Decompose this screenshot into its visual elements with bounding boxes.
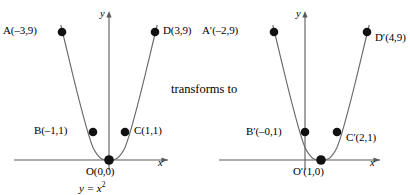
point-marker-B: [89, 128, 98, 137]
point-marker-D-prime: [363, 28, 372, 37]
point-label-B: B(–1,1): [34, 125, 67, 137]
point-label-D-prime: D′(4,9): [375, 32, 406, 44]
point-label-O-prime: O′(1,0): [293, 166, 324, 178]
x-axis-label: x: [158, 157, 163, 168]
point-marker-O-prime: [316, 155, 326, 165]
point-marker-O: [104, 155, 114, 165]
point-label-A: A(–3,9): [3, 25, 37, 37]
equation-text: y = x: [79, 182, 102, 194]
transformed-parabola-figure: y x A′(–2,9) D′(4,9) B′(–0,1) C′(2,1) O′…: [205, 0, 410, 195]
point-marker-C-prime: [333, 128, 342, 137]
y-axis-label: y: [296, 8, 301, 19]
point-label-B-prime: B′(–0,1): [246, 126, 282, 138]
point-marker-C: [121, 128, 130, 137]
point-label-C-prime: C′(2,1): [346, 132, 376, 144]
equation-label: y = x2: [79, 180, 105, 194]
point-label-D: D(3,9): [163, 25, 191, 37]
original-parabola-figure: y x A(–3,9) D(3,9) B(–1,1) C(1,1) O(0,0)…: [0, 0, 205, 195]
point-marker-A-prime: [270, 28, 279, 37]
figure-page: y x A(–3,9) D(3,9) B(–1,1) C(1,1) O(0,0)…: [0, 0, 410, 195]
point-label-A-prime: A′(–2,9): [202, 25, 238, 37]
point-marker-B-prime: [301, 128, 310, 137]
y-axis-arrowhead: [302, 11, 307, 18]
x-axis-label: x: [370, 157, 375, 168]
point-marker-A: [58, 28, 67, 37]
point-marker-D: [151, 28, 160, 37]
equation-exponent: 2: [102, 180, 106, 189]
point-label-O: O(0,0): [86, 166, 114, 178]
point-label-C: C(1,1): [134, 125, 162, 137]
y-axis-label: y: [100, 8, 105, 19]
y-axis-arrowhead: [106, 11, 111, 18]
